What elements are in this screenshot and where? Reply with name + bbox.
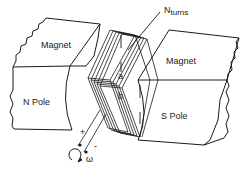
nturns-sub: turns [171, 8, 189, 17]
nturns-label: Nturns [164, 6, 188, 15]
right-magnet-label: Magnet [166, 57, 196, 66]
nturns-main: N [164, 5, 171, 15]
n-pole-label: N Pole [23, 98, 50, 107]
minus-label: - [94, 142, 97, 151]
plus-label: + [80, 128, 85, 137]
rotation-arrow-icon [69, 149, 82, 162]
omega-label: ω [86, 155, 93, 164]
right-magnet [138, 30, 239, 145]
dim-b-label: b [118, 92, 123, 101]
dim-a-label: a [118, 72, 123, 81]
generator-diagram [0, 0, 247, 169]
plus-terminal [78, 143, 81, 146]
left-magnet-label: Magnet [41, 41, 71, 50]
s-pole-label: S Pole [161, 112, 188, 121]
coil [88, 30, 158, 137]
left-magnet [10, 18, 100, 130]
